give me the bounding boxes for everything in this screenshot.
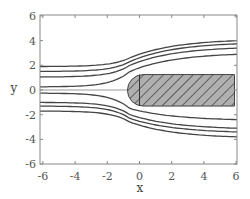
y-tick-label: -4 bbox=[25, 133, 36, 146]
x-tick-label: -2 bbox=[102, 170, 113, 183]
y-tick-label: 2 bbox=[29, 59, 36, 72]
y-axis-label: y bbox=[10, 81, 18, 95]
y-tick-label: -2 bbox=[25, 109, 36, 122]
streamline-upper-1 bbox=[40, 41, 240, 67]
x-tick-label: 6 bbox=[233, 170, 240, 183]
x-tick-label: 2 bbox=[168, 170, 175, 183]
y-tick-label: 4 bbox=[29, 35, 36, 48]
streamline-lower-4 bbox=[40, 111, 240, 137]
chart: -6-4-20246 -6-4-20246 x y bbox=[0, 0, 250, 199]
x-tick-label: 4 bbox=[200, 170, 207, 183]
y-tick-label: 6 bbox=[29, 10, 36, 23]
hatched-obstacle bbox=[127, 75, 234, 106]
plot-area bbox=[40, 41, 240, 137]
x-tick-label: -4 bbox=[70, 170, 81, 183]
x-tick-label: -6 bbox=[38, 170, 49, 183]
streamline-upper-3 bbox=[40, 48, 240, 77]
x-axis-label: x bbox=[137, 181, 144, 195]
y-tick-label: 0 bbox=[29, 84, 36, 97]
y-tick-label: -6 bbox=[25, 158, 36, 171]
